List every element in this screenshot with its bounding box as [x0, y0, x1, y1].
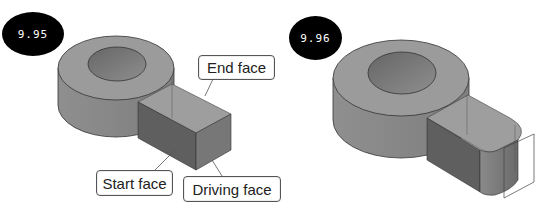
callout-driving-face: Driving face	[183, 176, 281, 202]
leader-end-face	[205, 79, 213, 96]
callout-start-face: Start face	[96, 170, 173, 196]
figure-number-badge: 9.95	[2, 12, 64, 56]
figure-number-badge: 9.96	[289, 16, 342, 60]
figure-9-95: 9.95 End face Start face Driving face	[0, 0, 280, 213]
leader-start-face	[153, 150, 175, 172]
figure-9-96: 9.96	[270, 0, 553, 213]
leader-driving-face	[212, 160, 222, 176]
callout-end-face: End face	[198, 55, 275, 80]
